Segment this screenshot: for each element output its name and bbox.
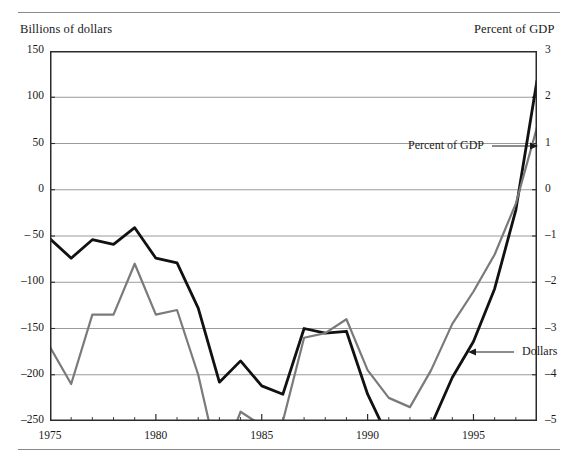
right-axis-title: Percent of GDP <box>474 22 555 37</box>
x-tick-label: 1985 <box>237 429 287 441</box>
right-tick-label: –4 <box>545 367 577 379</box>
right-tick-label: –2 <box>545 274 577 286</box>
right-tick-label: 2 <box>545 89 577 101</box>
left-tick-label: –250 <box>4 413 44 425</box>
left-tick-label: 100 <box>4 89 44 101</box>
left-tick-label: 50 <box>4 136 44 148</box>
chart-svg <box>50 51 537 421</box>
left-tick-label: –100 <box>4 274 44 286</box>
left-tick-label: 0 <box>4 182 44 194</box>
x-tick-label: 1990 <box>343 429 393 441</box>
footer-rule-bottom <box>18 449 560 450</box>
header-rule-top <box>18 12 560 13</box>
arrow-right-icon <box>492 141 538 151</box>
right-tick-label: –5 <box>545 413 577 425</box>
left-tick-label: –200 <box>4 367 44 379</box>
left-axis-title: Billions of dollars <box>20 22 112 37</box>
annotation-dollars-text: Dollars <box>522 344 557 358</box>
series-line-dollars <box>50 81 537 421</box>
data-series-group <box>50 81 537 421</box>
left-tick-label: – 50 <box>4 228 44 240</box>
left-tick-label: –150 <box>4 321 44 333</box>
x-tick-label: 1995 <box>448 429 498 441</box>
right-tick-label: 0 <box>545 182 577 194</box>
annotation-gdp-text: Percent of GDP <box>408 138 484 152</box>
series-line-percent-of-gdp <box>50 127 537 421</box>
x-tick-label: 1975 <box>25 429 75 441</box>
right-tick-label: 1 <box>545 136 577 148</box>
right-tick-label: –1 <box>545 228 577 240</box>
annotation-percent-of-gdp: Percent of GDP <box>408 138 538 153</box>
plot-area <box>50 51 537 421</box>
right-tick-label: –3 <box>545 321 577 333</box>
arrow-left-icon <box>468 347 514 357</box>
x-tick-label: 1980 <box>131 429 181 441</box>
left-tick-label: 150 <box>4 43 44 55</box>
annotation-dollars: Dollars <box>468 344 557 359</box>
figure-container: Billions of dollars Percent of GDP 15010… <box>0 0 577 462</box>
right-tick-label: 3 <box>545 43 577 55</box>
